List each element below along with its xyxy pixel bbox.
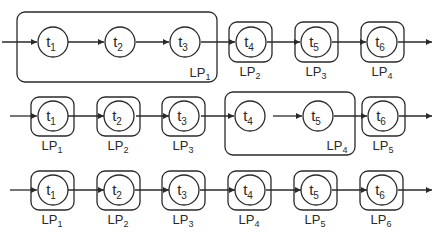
partition-label: LP4 <box>327 138 348 155</box>
row-3 <box>10 171 432 210</box>
partition-label: LP5 <box>373 138 394 155</box>
partition-label: LP3 <box>173 212 194 229</box>
partition-label: LP2 <box>240 64 261 81</box>
partition-label: LP3 <box>306 64 327 81</box>
partition-label: LP2 <box>108 212 129 229</box>
partition-label: LP3 <box>173 138 194 155</box>
partition-label: LP2 <box>108 138 129 155</box>
partition-label: LP1 <box>190 65 211 82</box>
row-2 <box>10 92 432 155</box>
partition-label: LP1 <box>42 212 63 229</box>
partition-label: LP6 <box>371 212 392 229</box>
partition-label: LP1 <box>42 138 63 155</box>
partition-label: LP4 <box>372 64 393 81</box>
row-1 <box>2 12 432 82</box>
partition-label: LP4 <box>239 212 260 229</box>
partition-label: LP5 <box>305 212 326 229</box>
pipeline-diagram: t1 t2 t3 t4 t5 t6 LP1 LP2 LP3 LP4 t1 t2 … <box>0 0 443 240</box>
